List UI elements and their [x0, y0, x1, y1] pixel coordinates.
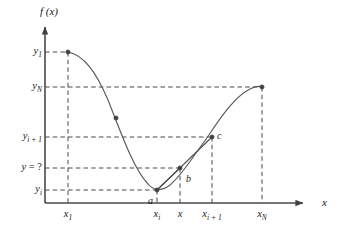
y-tick-label-y1: y1 [34, 46, 42, 57]
x-tick-label-x: x [178, 209, 183, 220]
x-tick-label-xi1: xi + 1 [202, 209, 221, 220]
marker-point-c [210, 135, 214, 139]
y-tick-label-yi: yi [35, 184, 42, 195]
y-tick-label-yq: y = ? [21, 162, 42, 173]
horizontal-gridlines [45, 52, 262, 190]
vertical-gridlines [68, 52, 262, 203]
interpolation-figure: f (x) x y1yNyi + 1y = ?yi x1xixxi + 1xN … [0, 0, 347, 234]
y-tick-label-yN: yN [32, 81, 42, 92]
point-label-a: a [148, 196, 153, 206]
point-label-c: c [217, 131, 221, 141]
marker-curve-sample-marker [114, 116, 118, 120]
y-axis-title: f (x) [40, 6, 58, 17]
function-curve [68, 52, 262, 189]
data-point-markers [66, 50, 264, 192]
marker-interpolated-point [178, 166, 182, 170]
x-tick-label-xi: xi [154, 209, 161, 220]
figure-canvas [0, 0, 347, 234]
x-tick-label-x1: x1 [64, 209, 72, 220]
marker-point-a [155, 188, 159, 192]
x-axis-title: x [322, 197, 327, 208]
marker-first-sample [66, 50, 70, 54]
marker-last-sample [260, 85, 264, 89]
y-tick-label-yi1: yi + 1 [23, 131, 42, 142]
x-tick-label-xN: xN [257, 209, 267, 220]
point-label-b: b [186, 174, 191, 184]
